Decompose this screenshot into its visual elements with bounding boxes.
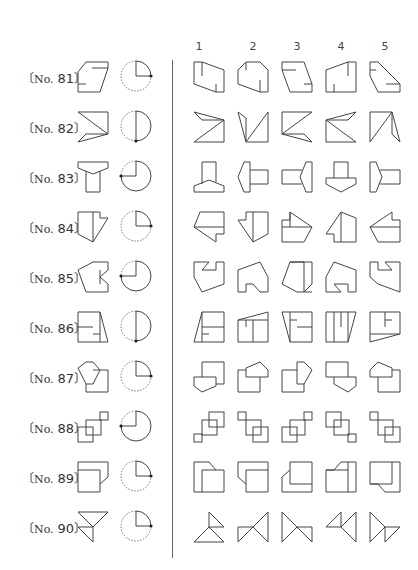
no-prefix: No.: [34, 473, 54, 486]
bracket-open: 〔: [22, 222, 34, 236]
rotation-clock-90: [120, 60, 152, 92]
column-header-1: 1: [189, 40, 209, 53]
no-prefix: No.: [34, 173, 54, 186]
problem-number: 83: [57, 171, 74, 186]
option-83-3[interactable]: [282, 162, 314, 194]
source-figure-85: [78, 262, 110, 294]
option-83-1[interactable]: [194, 162, 226, 194]
problem-number: 85: [57, 271, 74, 286]
option-85-3[interactable]: [282, 262, 314, 294]
problem-number: 87: [57, 371, 74, 386]
option-84-5[interactable]: [370, 212, 402, 244]
option-81-3[interactable]: [282, 62, 314, 94]
option-88-2[interactable]: [238, 412, 270, 444]
problem-label-83: 〔No. 83〕: [22, 169, 86, 186]
rotation-clock-90b: [120, 210, 152, 242]
column-divider: [172, 60, 173, 558]
option-90-1[interactable]: [194, 512, 226, 544]
source-figure-84: [78, 212, 110, 244]
bracket-open: 〔: [22, 372, 34, 386]
option-89-3[interactable]: [282, 462, 314, 494]
rotation-clock-270c: [120, 410, 152, 442]
option-86-1[interactable]: [194, 312, 226, 344]
option-90-3[interactable]: [282, 512, 314, 544]
rotation-clock-90c: [120, 360, 152, 392]
option-90-4[interactable]: [326, 512, 358, 544]
no-prefix: No.: [34, 373, 54, 386]
no-prefix: No.: [34, 273, 54, 286]
option-88-5[interactable]: [370, 412, 402, 444]
option-88-3[interactable]: [282, 412, 314, 444]
option-82-5[interactable]: [370, 112, 402, 144]
option-87-4[interactable]: [326, 362, 358, 394]
bracket-open: 〔: [22, 522, 34, 536]
rotation-clock-270b: [120, 260, 152, 292]
option-89-1[interactable]: [194, 462, 226, 494]
problem-label-82: 〔No. 82〕: [22, 119, 86, 136]
option-81-4[interactable]: [326, 62, 358, 94]
option-87-2[interactable]: [238, 362, 270, 394]
option-83-2[interactable]: [238, 162, 270, 194]
source-figure-88: [78, 412, 110, 444]
option-81-2[interactable]: [238, 62, 270, 94]
option-88-1[interactable]: [194, 412, 226, 444]
column-header-2: 2: [243, 40, 263, 53]
bracket-open: 〔: [22, 272, 34, 286]
option-90-5[interactable]: [370, 512, 402, 544]
problem-label-88: 〔No. 88〕: [22, 419, 86, 436]
source-figure-90: [78, 512, 110, 544]
option-85-1[interactable]: [194, 262, 226, 294]
rotation-clock-90d: [120, 460, 152, 492]
option-84-3[interactable]: [282, 212, 314, 244]
option-89-2[interactable]: [238, 462, 270, 494]
no-prefix: No.: [34, 523, 54, 536]
option-82-2[interactable]: [238, 112, 270, 144]
option-88-4[interactable]: [326, 412, 358, 444]
no-prefix: No.: [34, 73, 54, 86]
option-85-4[interactable]: [326, 262, 358, 294]
option-81-1[interactable]: [194, 62, 226, 94]
option-82-4[interactable]: [326, 112, 358, 144]
option-89-5[interactable]: [370, 462, 402, 494]
option-83-4[interactable]: [326, 162, 358, 194]
option-82-1[interactable]: [194, 112, 226, 144]
option-90-2[interactable]: [238, 512, 270, 544]
option-86-4[interactable]: [326, 312, 358, 344]
option-87-3[interactable]: [282, 362, 314, 394]
column-header-5: 5: [375, 40, 395, 53]
rotation-clock-180: [120, 110, 152, 142]
source-figure-86: [78, 312, 110, 344]
no-prefix: No.: [34, 223, 54, 236]
option-84-2[interactable]: [238, 212, 270, 244]
option-85-5[interactable]: [370, 262, 402, 294]
problem-label-84: 〔No. 84〕: [22, 219, 86, 236]
problem-label-81: 〔No. 81〕: [22, 69, 86, 86]
no-prefix: No.: [34, 323, 54, 336]
option-89-4[interactable]: [326, 462, 358, 494]
option-86-5[interactable]: [370, 312, 402, 344]
option-87-5[interactable]: [370, 362, 402, 394]
option-85-2[interactable]: [238, 262, 270, 294]
option-84-1[interactable]: [194, 212, 226, 244]
bracket-open: 〔: [22, 322, 34, 336]
problem-number: 84: [57, 221, 74, 236]
problem-number: 90: [57, 521, 74, 536]
option-86-3[interactable]: [282, 312, 314, 344]
source-figure-82: [78, 112, 110, 144]
rotation-clock-90e: [120, 510, 152, 542]
option-83-5[interactable]: [370, 162, 402, 194]
option-86-2[interactable]: [238, 312, 270, 344]
option-81-5[interactable]: [370, 62, 402, 94]
bracket-open: 〔: [22, 472, 34, 486]
problem-label-89: 〔No. 89〕: [22, 469, 86, 486]
bracket-open: 〔: [22, 72, 34, 86]
problem-number: 88: [57, 421, 74, 436]
column-header-3: 3: [287, 40, 307, 53]
rotation-clock-180b: [120, 310, 152, 342]
problem-label-86: 〔No. 86〕: [22, 319, 86, 336]
source-figure-87: [78, 362, 110, 394]
option-84-4[interactable]: [326, 212, 358, 244]
problem-number: 89: [57, 471, 74, 486]
option-82-3[interactable]: [282, 112, 314, 144]
option-87-1[interactable]: [194, 362, 226, 394]
